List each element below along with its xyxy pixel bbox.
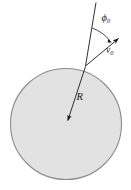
velocity-label: v0 — [106, 45, 114, 56]
radius-extension-line — [86, 3, 97, 67]
figure-canvas: ϕ0 v0 R — [0, 0, 131, 190]
sphere-circle — [11, 69, 122, 180]
angle-arc-tick — [108, 39, 112, 42]
angle-label-subscript: 0 — [107, 17, 111, 24]
radius-label: R — [76, 91, 84, 102]
angle-arc — [92, 28, 110, 42]
physics-figure: ϕ0 v0 R — [0, 0, 131, 190]
angle-label: ϕ0 — [102, 12, 111, 24]
velocity-arrow — [86, 39, 119, 67]
velocity-label-subscript: 0 — [110, 49, 114, 56]
